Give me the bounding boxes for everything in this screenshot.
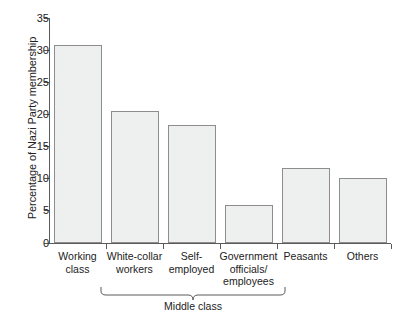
category-label-line: Peasants [275,250,336,263]
y-tick-label: 10 [21,173,49,183]
y-tick-20: 20 [0,114,49,115]
category-label-line: Self- [161,250,222,263]
y-tick-label: 15 [21,141,49,151]
category-label-line: employed [161,263,222,276]
category-label-line: workers [104,263,165,276]
y-tick-label: 0 [21,238,49,248]
y-tick-10: 10 [0,178,49,179]
category-label-line: Working [47,250,108,263]
x-tick-mark [163,244,164,249]
x-tick-mark [334,244,335,249]
x-tick-mark [277,244,278,249]
x-tick-mark [106,244,107,249]
category-label: Governmentofficials/employees [218,250,279,288]
y-tick-35: 35 [0,18,49,19]
y-tick-15: 15 [0,146,49,147]
category-label: Self-employed [161,250,222,275]
x-tick-mark [220,244,221,249]
category-label-line: White-collar [104,250,165,263]
y-tick-25: 25 [0,82,49,83]
bar [225,205,273,243]
y-tick-label: 20 [21,109,49,119]
y-tick-label: 30 [21,45,49,55]
bar [339,178,387,243]
y-tick-30: 30 [0,50,49,51]
y-tick-label: 5 [21,205,49,215]
x-tick-mark [391,244,392,249]
y-tick-label: 25 [21,77,49,87]
category-label-line: class [47,263,108,276]
category-label-line: officials/ [218,263,279,276]
bar-chart: Percentage of Nazi Party membership 0510… [0,0,407,322]
category-label-line: Government [218,250,279,263]
category-label: Workingclass [47,250,108,275]
y-axis-line [49,18,50,244]
category-label: Others [332,250,393,263]
bar [168,125,216,243]
category-label: Peasants [275,250,336,263]
y-tick-5: 5 [0,210,49,211]
category-label: White-collarworkers [104,250,165,275]
middle-class-group-label: Middle class [100,300,286,312]
bar [111,111,159,243]
y-tick-0: 0 [0,243,49,244]
bar [282,168,330,243]
y-tick-label: 35 [21,13,49,23]
bar [54,45,102,243]
category-label-line: Others [332,250,393,263]
